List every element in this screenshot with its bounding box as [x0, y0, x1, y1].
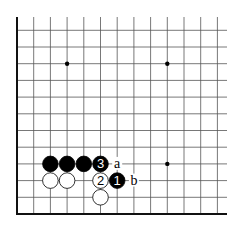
- star-point: [65, 62, 69, 66]
- point-label-b: b: [130, 173, 137, 188]
- white-stone: [93, 190, 109, 206]
- star-point: [165, 62, 169, 66]
- move-number: 1: [114, 173, 121, 188]
- move-number: 2: [97, 173, 104, 188]
- black-stone: [59, 156, 75, 172]
- white-stone: [59, 173, 75, 189]
- point-label-a: a: [114, 156, 121, 171]
- white-stone: [43, 173, 59, 189]
- black-stone: [43, 156, 59, 172]
- black-stone: [76, 156, 92, 172]
- black-stone: 3: [93, 156, 109, 172]
- move-number: 3: [97, 156, 104, 171]
- go-board: 321 ab: [0, 0, 246, 227]
- white-stone: 2: [93, 173, 109, 189]
- black-stone: 1: [109, 173, 125, 189]
- star-point: [165, 162, 169, 166]
